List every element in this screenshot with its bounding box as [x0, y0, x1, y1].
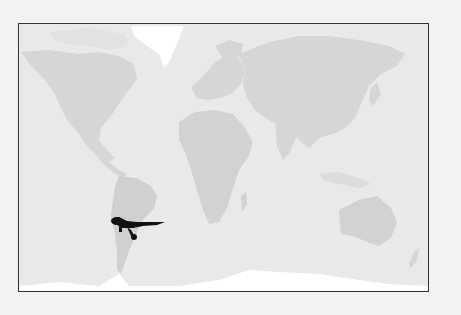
- europe: [191, 54, 245, 100]
- map-frame: [18, 23, 429, 292]
- new-zealand: [409, 248, 419, 268]
- arctic-islands: [49, 28, 129, 50]
- scandinavia: [215, 40, 243, 60]
- antarctica: [19, 270, 429, 292]
- greenland: [131, 26, 184, 68]
- japan: [369, 82, 381, 106]
- madagascar: [241, 192, 247, 212]
- australia: [339, 196, 397, 246]
- indonesia: [319, 172, 371, 188]
- world-map: [19, 24, 429, 292]
- north-america: [21, 50, 137, 162]
